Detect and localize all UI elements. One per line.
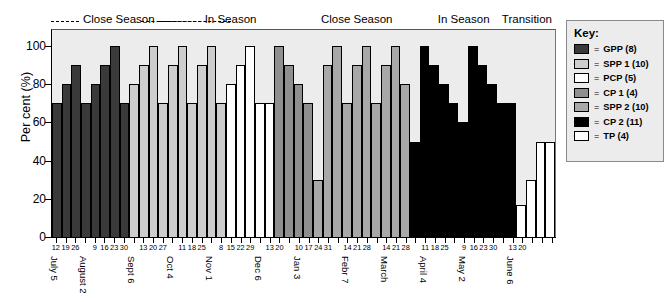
x-axis-date-label (207, 243, 217, 254)
bar (478, 65, 488, 237)
bar (323, 65, 333, 237)
x-axis-date-label: 19 (61, 243, 71, 254)
bar (139, 65, 149, 237)
x-axis-date-label: 18 (187, 243, 197, 254)
legend-item: =GPP (8) (574, 42, 663, 57)
x-axis-date-label: 20 (275, 243, 285, 254)
legend-separator: = (594, 102, 599, 112)
bar (391, 46, 401, 237)
x-axis-date-label: 9 (90, 243, 100, 254)
legend-label: GPP (8) (603, 44, 636, 54)
season-label: Close Season (83, 13, 155, 25)
x-axis-date-label: 10 (294, 243, 304, 254)
bar-chart-figure: Per cent (%) 020406080100 Close SeasonIn… (0, 0, 671, 302)
season-label: In Season (205, 13, 257, 25)
x-axis-date-label: 13 (265, 243, 275, 254)
bar (52, 103, 62, 237)
bars-container (52, 46, 555, 237)
legend-label: TP (4) (603, 131, 629, 141)
x-axis-date-label: 21 (352, 243, 362, 254)
bar (468, 46, 478, 237)
x-axis-date-label: 23 (109, 243, 119, 254)
bar (458, 122, 468, 237)
x-axis-date-label: 12 (51, 243, 61, 254)
bar (100, 65, 110, 237)
x-axis-month-labels: July 5August 2Sept 6Oct 4Nov 1Dec 6Jan 3… (51, 256, 556, 302)
x-axis-date-label (449, 243, 459, 254)
bar (158, 103, 168, 237)
x-axis-date-label (333, 243, 343, 254)
bar (487, 84, 497, 237)
legend-swatch (574, 44, 589, 54)
x-axis-date-label: 22 (236, 243, 246, 254)
x-axis-date-label: 21 (391, 243, 401, 254)
season-label: Transition (502, 13, 552, 25)
x-axis-date-label: 20 (148, 243, 158, 254)
legend: Key: =GPP (8)=SPP 1 (10)=PCP (5)=CP 1 (4… (566, 20, 664, 162)
legend-label: SPP 1 (10) (603, 59, 648, 69)
bar (236, 65, 246, 237)
bar (110, 46, 120, 237)
legend-swatch (574, 59, 589, 69)
bar (284, 65, 294, 237)
x-axis-date-label: 30 (119, 243, 129, 254)
bar (226, 84, 236, 237)
x-axis-month-label: Dec 6 (253, 256, 264, 281)
bar (120, 103, 130, 237)
x-axis-month-label: March (379, 256, 390, 282)
bar (332, 46, 342, 237)
legend-separator: = (594, 59, 599, 69)
x-axis-date-label: 13 (508, 243, 518, 254)
legend-separator: = (594, 131, 599, 141)
x-axis-date-label (372, 243, 382, 254)
bar (91, 84, 101, 237)
x-axis-date-label: 23 (479, 243, 489, 254)
legend-item: =SPP 2 (10) (574, 100, 663, 115)
x-axis-date-label: 31 (323, 243, 333, 254)
x-axis-date-label (284, 243, 294, 254)
x-axis-date-label: 9 (459, 243, 469, 254)
x-axis-date-label: 18 (430, 243, 440, 254)
x-axis-month-label: Nov 1 (204, 256, 215, 281)
bar (168, 65, 178, 237)
bar (536, 142, 546, 238)
bar (81, 103, 91, 237)
legend-rows: =GPP (8)=SPP 1 (10)=PCP (5)=CP 1 (4)=SPP… (574, 42, 663, 144)
legend-title: Key: (574, 27, 663, 39)
legend-separator: = (594, 44, 599, 54)
x-axis-date-label: 28 (362, 243, 372, 254)
legend-label: SPP 2 (10) (603, 102, 648, 112)
x-axis-date-label (168, 243, 178, 254)
bar (371, 103, 381, 237)
season-label: In Season (438, 13, 490, 25)
season-annotations: Close SeasonIn SeasonClose SeasonIn Seas… (51, 13, 556, 29)
x-axis-date-label: 8 (216, 243, 226, 254)
x-axis-date-label (498, 243, 508, 254)
bar (400, 84, 410, 237)
x-axis-month-label: April 4 (418, 256, 429, 283)
x-axis-date-label (411, 243, 421, 254)
bar (255, 103, 265, 237)
legend-swatch (574, 102, 589, 112)
x-axis-date-label: 24 (313, 243, 323, 254)
season-label: Close Season (321, 13, 393, 25)
legend-swatch (574, 117, 589, 127)
bar (149, 46, 159, 237)
bar (216, 103, 226, 237)
x-axis-date-label: 30 (488, 243, 498, 254)
legend-item: =CP 1 (4) (574, 86, 663, 101)
legend-separator: = (594, 73, 599, 83)
bar (429, 65, 439, 237)
x-axis-date-label (129, 243, 139, 254)
legend-separator: = (594, 88, 599, 98)
bar (381, 65, 391, 237)
bar (62, 84, 72, 237)
x-axis-date-labels: 1219269162330132027111825815222913201017… (51, 243, 556, 254)
plot-area (51, 29, 556, 237)
season-dash-leader (51, 21, 79, 22)
bar (545, 142, 555, 238)
x-axis-date-label (547, 243, 557, 254)
legend-separator: = (594, 117, 599, 127)
x-axis-date-label (80, 243, 90, 254)
bar (294, 84, 304, 237)
